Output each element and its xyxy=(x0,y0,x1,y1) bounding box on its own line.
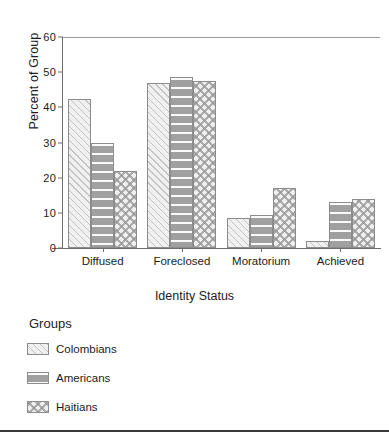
x-tick-mark xyxy=(340,248,341,252)
bar-group xyxy=(147,37,216,248)
bar-group xyxy=(227,37,296,248)
bar xyxy=(68,99,91,248)
bar xyxy=(114,171,137,248)
y-tick-label: 10 xyxy=(43,207,56,219)
legend-swatch-icon xyxy=(27,343,49,355)
y-tick-label: 30 xyxy=(43,137,56,149)
y-tick-label: 0 xyxy=(50,242,56,254)
bar-group xyxy=(306,37,375,248)
legend-label: Colombians xyxy=(56,343,117,355)
legend-label: Americans xyxy=(56,372,110,384)
x-tick-label: Achieved xyxy=(317,255,364,267)
bar-group xyxy=(68,37,137,248)
bottom-rule xyxy=(0,430,389,432)
legend: Groups ColombiansAmericansHaitians xyxy=(27,316,247,429)
x-tick-mark xyxy=(182,248,183,252)
x-axis-line xyxy=(52,248,381,249)
legend-item: Americans xyxy=(27,371,247,385)
legend-title: Groups xyxy=(27,316,247,331)
y-tick-label: 60 xyxy=(43,31,56,43)
legend-item: Haitians xyxy=(27,400,247,414)
bar xyxy=(352,199,375,248)
bar xyxy=(306,241,329,248)
bar xyxy=(250,215,273,248)
bar xyxy=(227,218,250,248)
bar xyxy=(147,83,170,248)
x-axis-title: Identity Status xyxy=(0,289,389,303)
x-tick-label: Diffused xyxy=(82,255,124,267)
x-tick-label: Moratorium xyxy=(232,255,290,267)
x-tick-label: Foreclosed xyxy=(153,255,210,267)
x-axis-labels: DiffusedForeclosedMoratoriumAchieved xyxy=(63,252,380,272)
y-tick-label: 50 xyxy=(43,66,56,78)
x-tick-mark xyxy=(261,248,262,252)
bar-groups xyxy=(63,37,380,248)
y-tick-label: 20 xyxy=(43,172,56,184)
bar xyxy=(329,202,352,248)
y-axis-title: Percent of Group xyxy=(27,0,41,171)
legend-label: Haitians xyxy=(56,401,98,413)
legend-swatch-icon xyxy=(27,372,49,384)
legend-swatch-icon xyxy=(27,401,49,413)
y-tick-label: 40 xyxy=(43,101,56,113)
bar xyxy=(91,143,114,249)
legend-item: Colombians xyxy=(27,342,247,356)
bar xyxy=(170,77,193,248)
figure: 0102030405060 Percent of Group DiffusedF… xyxy=(0,0,389,441)
bar xyxy=(273,188,296,248)
bar xyxy=(193,81,216,248)
x-tick-mark xyxy=(103,248,104,252)
legend-entries: ColombiansAmericansHaitians xyxy=(27,342,247,414)
